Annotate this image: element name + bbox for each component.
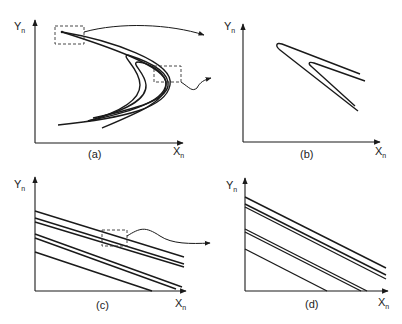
panel-caption: (d) <box>305 298 318 310</box>
y-axis-label: Yn <box>14 20 25 34</box>
panel-d: Yn Xn (d) <box>226 178 389 310</box>
x-axis-label: Xn <box>378 296 389 310</box>
x-axis-label: Xn <box>375 145 386 159</box>
panel-b: Yn Xn (b) <box>224 20 386 160</box>
arrow-to-b <box>84 26 204 35</box>
panel-caption: (c) <box>96 299 109 311</box>
x-axis-label: Xn <box>175 297 186 311</box>
panel-caption: (a) <box>88 148 101 160</box>
arrow-to-c <box>181 78 211 90</box>
attractor-curves <box>58 31 170 128</box>
parallel-lines <box>245 197 386 291</box>
y-axis-label: Yn <box>226 179 237 193</box>
fractal-zoom-figure: Yn Xn (a) Yn Xn (b) Yn Xn (c) <box>0 0 402 324</box>
panel-c: Yn Xn (c) <box>14 177 210 311</box>
fold-curves <box>277 43 365 111</box>
panel-a: Yn Xn (a) <box>14 20 211 160</box>
arrow-to-d <box>127 229 210 243</box>
y-axis-label: Yn <box>14 178 25 192</box>
x-axis-label: Xn <box>173 145 184 159</box>
y-axis-label: Yn <box>224 20 235 34</box>
parallel-lines <box>35 211 184 291</box>
panel-caption: (b) <box>300 148 313 160</box>
